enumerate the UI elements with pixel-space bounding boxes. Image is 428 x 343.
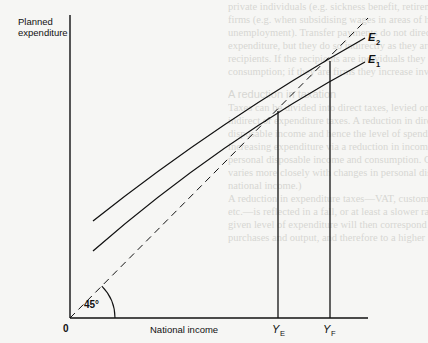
angle-arc [102,286,115,318]
yf-label: Y F [323,323,336,338]
origin-label: 0 [63,323,69,334]
e1-line [93,62,365,251]
yf-label-main: Y [323,323,331,335]
ye-label-sub: E [280,329,285,338]
yf-label-sub: F [331,329,336,338]
e2-label: E 2 [368,31,380,47]
ye-label: Y E [272,323,285,338]
e1-label-main: E [368,53,376,65]
e1-label-sub: 1 [376,60,380,69]
e2-line [93,38,365,221]
45-degree-line [70,18,368,318]
x-axis-label: National income [150,324,218,335]
ye-label-main: Y [272,323,280,335]
e2-label-main: E [368,31,376,43]
e1-label: E 1 [368,53,380,69]
e2-label-sub: 2 [376,38,380,47]
angle-label: 45° [84,299,99,310]
